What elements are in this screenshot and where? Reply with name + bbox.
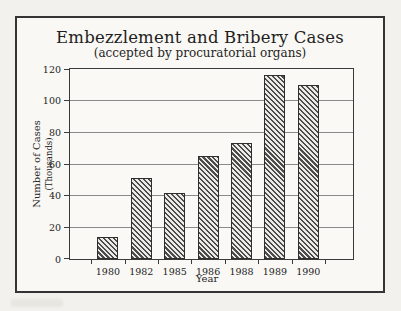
x-tick-6 xyxy=(292,260,293,264)
y-tick-label-20: 20 xyxy=(28,222,61,233)
x-tick-5 xyxy=(258,260,259,264)
y-tick-100 xyxy=(64,100,69,101)
chart-subtitle: (accepted by procuratorial organs) xyxy=(17,47,383,60)
bar-1980 xyxy=(97,237,118,259)
bar-1988 xyxy=(231,143,252,259)
bar-1989 xyxy=(264,75,285,259)
cropped-caption-remnant xyxy=(11,299,63,307)
y-tick-label-100: 100 xyxy=(28,95,61,106)
x-tick-4 xyxy=(225,260,226,264)
y-tick-0 xyxy=(64,258,69,259)
y-tick-120 xyxy=(64,69,69,70)
x-tick-label-1990: 1990 xyxy=(291,266,325,277)
y-tick-label-40: 40 xyxy=(28,190,61,201)
chart-title: Embezzlement and Bribery Cases xyxy=(17,29,383,47)
bar-1985 xyxy=(164,193,185,260)
x-tick-label-1989: 1989 xyxy=(258,266,292,277)
x-tick-7 xyxy=(325,260,326,264)
bar-1990 xyxy=(298,85,319,259)
x-tick-1 xyxy=(125,260,126,264)
y-tick-40 xyxy=(64,195,69,196)
x-tick-label-1982: 1982 xyxy=(124,266,158,277)
y-tick-label-60: 60 xyxy=(28,159,61,170)
y-tick-label-80: 80 xyxy=(28,127,61,138)
x-tick-label-1980: 1980 xyxy=(91,266,125,277)
bar-1982 xyxy=(131,178,152,259)
plot-area: 0204060801001201980198219851986198819891… xyxy=(69,68,354,260)
x-tick-3 xyxy=(191,260,192,264)
figure-frame: Embezzlement and Bribery Cases (accepted… xyxy=(15,16,385,293)
y-tick-20 xyxy=(64,227,69,228)
y-tick-80 xyxy=(64,132,69,133)
bar-1986 xyxy=(198,156,219,259)
y-tick-label-120: 120 xyxy=(28,64,61,75)
x-axis-title: Year xyxy=(182,273,232,284)
scanned-page: Embezzlement and Bribery Cases (accepted… xyxy=(0,0,401,311)
y-tick-label-0: 0 xyxy=(28,254,61,265)
x-tick-0 xyxy=(91,260,92,264)
x-tick-2 xyxy=(158,260,159,264)
y-tick-60 xyxy=(64,164,69,165)
